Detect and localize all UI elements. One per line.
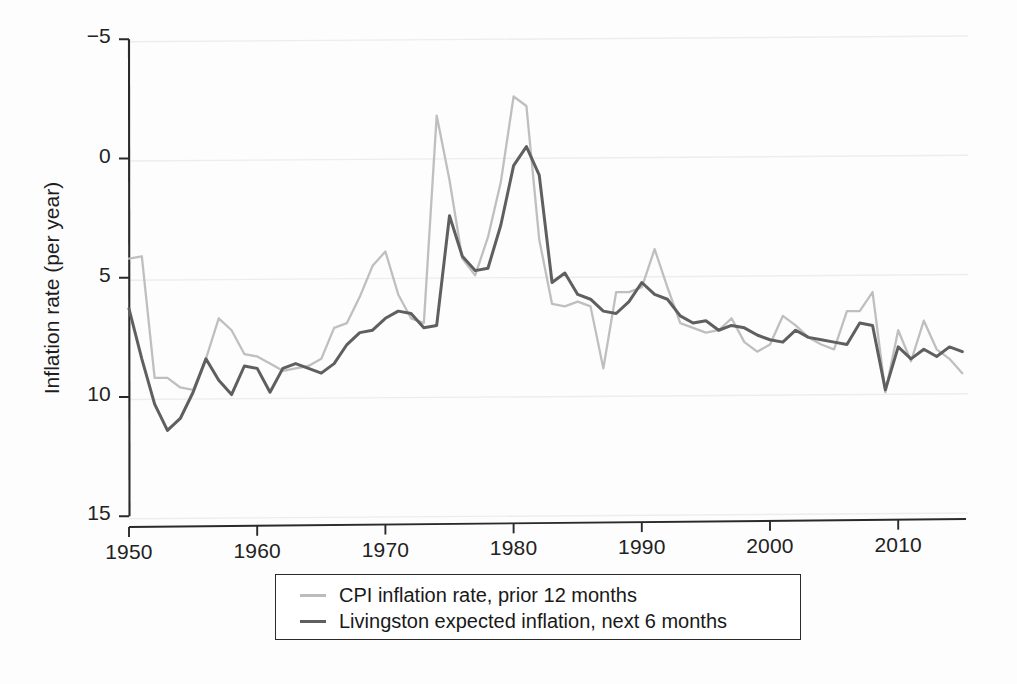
legend-item-cpi: CPI inflation rate, prior 12 months xyxy=(300,583,800,608)
chart-legend: CPI inflation rate, prior 12 months Livi… xyxy=(275,574,801,640)
legend-label-livingston: Livingston expected inflation, next 6 mo… xyxy=(339,610,727,633)
x-tick-label: 1980 xyxy=(469,536,559,560)
x-tick-label: 1970 xyxy=(340,538,430,562)
x-axis-line xyxy=(129,519,966,527)
x-tick-label: 2000 xyxy=(725,534,815,558)
gridline xyxy=(129,155,968,161)
y-tick-label: 0 xyxy=(49,144,111,168)
gridline xyxy=(129,513,968,519)
legend-swatch-cpi xyxy=(300,594,326,597)
series-line-livingston xyxy=(129,147,962,431)
series-line-cpi xyxy=(129,96,962,392)
x-tick-label: 1950 xyxy=(84,540,174,564)
data-series-group xyxy=(129,96,962,430)
x-tick-label: 1960 xyxy=(212,539,302,563)
figure-canvas: Inflation rate (per year) 151050−5 19501… xyxy=(0,0,1017,684)
tick-marks-group xyxy=(119,39,898,537)
y-tick-label: 10 xyxy=(49,382,111,406)
legend-label-cpi: CPI inflation rate, prior 12 months xyxy=(339,584,637,607)
legend-swatch-livingston xyxy=(300,620,326,623)
x-tick-label: 2010 xyxy=(853,533,943,557)
x-tick-label: 1990 xyxy=(597,535,687,559)
gridline xyxy=(129,275,968,281)
y-tick-label: 5 xyxy=(49,263,111,287)
y-tick-label: 15 xyxy=(49,501,111,525)
gridline xyxy=(129,394,968,400)
gridlines-group xyxy=(129,36,968,519)
gridline xyxy=(129,36,968,42)
y-axis-line xyxy=(129,39,130,516)
y-tick-label: −5 xyxy=(49,24,111,48)
legend-item-livingston: Livingston expected inflation, next 6 mo… xyxy=(300,609,800,634)
